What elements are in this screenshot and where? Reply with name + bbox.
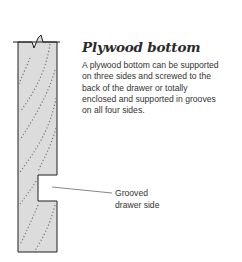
- callout-leader: [52, 187, 112, 193]
- figure-title: Plywood bottom: [82, 39, 200, 55]
- callout-line: Grooved: [115, 187, 159, 199]
- callout-label: Grooved drawer side: [115, 187, 159, 211]
- board-outline: [18, 35, 57, 252]
- callout-line: drawer side: [115, 199, 159, 211]
- description-line: on all four sides.: [82, 105, 242, 116]
- description-line: back of the drawer or totally: [82, 83, 242, 94]
- description-line: on three sides and screwed to the: [82, 71, 242, 82]
- description-line: enclosed and supported in grooves: [82, 94, 242, 105]
- drawer-side-illustration: Plywood bottom A plywood bottom can be s…: [0, 0, 242, 262]
- description-line: A plywood bottom can be supported: [82, 60, 242, 71]
- figure-description: A plywood bottom can be supported on thr…: [82, 60, 242, 116]
